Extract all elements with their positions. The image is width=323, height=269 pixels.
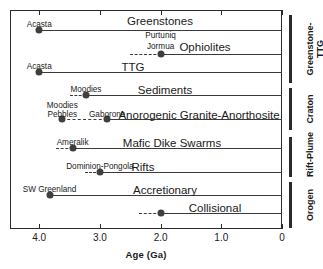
- series-label: Ophiolites: [179, 41, 230, 53]
- geologic-timeline-chart: 4.03.02.01.00 Age (Ga) GreenstonesAcasta…: [0, 0, 323, 269]
- group-bracket-bar: [289, 15, 292, 83]
- group-bracket-bar: [289, 182, 292, 228]
- series-label: Rifts: [132, 161, 155, 173]
- range-line: [100, 172, 282, 173]
- tick-bottom: [282, 224, 283, 229]
- tick-top: [282, 10, 283, 15]
- point-annotation-label: Acasta: [27, 20, 52, 29]
- tick-top: [39, 10, 40, 15]
- group-bracket-bar: [289, 88, 292, 130]
- tick-label: 3.0: [93, 232, 107, 243]
- group-bracket-bar: [289, 137, 292, 177]
- tick-bottom: [39, 224, 40, 229]
- point-annotation-label: Moodies: [47, 101, 78, 110]
- tick-top: [100, 10, 101, 15]
- point-annotation-label: Acasta: [27, 62, 52, 71]
- series-label: Accretionary: [133, 184, 197, 196]
- tick-bottom: [100, 224, 101, 229]
- tick-label: 2.0: [154, 232, 168, 243]
- point-annotation-label: SW Greenland: [23, 185, 77, 194]
- x-axis-title: Age (Ga): [0, 249, 292, 260]
- tick-bottom: [221, 224, 222, 229]
- tick-label: 1.0: [214, 232, 228, 243]
- range-line: [39, 72, 282, 73]
- point-annotation-label: Moodies: [70, 85, 101, 94]
- uncertainty-dashed-segment: [62, 119, 107, 120]
- point-annotation-label: Ameralik: [57, 138, 89, 147]
- series-label: Sediments: [138, 84, 192, 96]
- point-annotation-label: Purtuniq: [145, 31, 176, 40]
- series-label: Collisional: [189, 202, 241, 214]
- tick-label: 0: [279, 232, 285, 243]
- point-annotation-label: Jormua: [147, 42, 174, 51]
- range-line: [161, 54, 282, 55]
- series-label: Greenstones: [127, 15, 193, 27]
- point-annotation-label: Gaborone: [89, 110, 125, 119]
- uncertainty-dashed-segment: [130, 54, 160, 55]
- tick-label: 4.0: [32, 232, 46, 243]
- series-label: Anorogenic Granite-Anorthosite: [118, 109, 279, 121]
- tick-top: [221, 10, 222, 15]
- data-point-dot: [157, 51, 164, 58]
- series-label: TTG: [122, 61, 145, 73]
- point-annotation-label: Dominion-Pongola: [66, 162, 133, 171]
- series-label: Mafic Dike Swarms: [123, 137, 221, 149]
- point-annotation-label: Pebbles: [47, 110, 77, 119]
- data-point-dot: [157, 210, 164, 217]
- tick-bottom: [161, 224, 162, 229]
